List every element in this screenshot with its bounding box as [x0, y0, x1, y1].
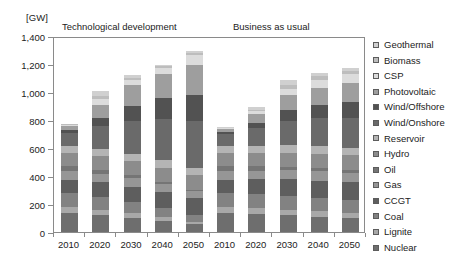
x-axis-tick-mark	[334, 233, 335, 237]
bar-segment	[248, 214, 265, 232]
legend: GeothermalBiomassCSPPhotovoltaicWind/Off…	[373, 37, 467, 255]
bar-segment	[61, 146, 78, 153]
bar-segment	[217, 153, 234, 166]
legend-item[interactable]: Gas	[373, 177, 467, 193]
bar-segment	[124, 161, 141, 175]
legend-label: CCGT	[384, 196, 411, 206]
bar-segment	[124, 85, 141, 106]
legend-item[interactable]: Coal	[373, 209, 467, 225]
bar-segment	[124, 154, 141, 161]
legend-swatch-icon	[373, 120, 379, 126]
bar-segment	[342, 74, 359, 83]
legend-item[interactable]: CSP	[373, 68, 467, 84]
stacked-bar	[92, 91, 109, 232]
bar-segment	[280, 95, 297, 110]
bar-segment	[92, 182, 109, 197]
bar-segment	[342, 102, 359, 117]
bar-segment	[186, 168, 203, 176]
bar-segment	[311, 198, 328, 211]
bar-segment	[92, 105, 109, 118]
x-axis-tick-label: 2010	[214, 239, 235, 250]
legend-swatch-icon	[373, 213, 379, 219]
stacked-bar	[155, 65, 172, 232]
stacked-bar	[124, 75, 141, 232]
legend-item[interactable]: CCGT	[373, 193, 467, 209]
legend-label: Oil	[384, 165, 396, 175]
legend-swatch-icon	[373, 198, 379, 204]
x-axis-tick-mark	[84, 233, 85, 237]
legend-swatch-icon	[373, 135, 379, 141]
legend-label: Coal	[384, 212, 404, 222]
legend-label: Wind/Offshore	[384, 102, 445, 112]
bar-segment	[61, 171, 78, 179]
bar-segment	[311, 88, 328, 106]
x-axis-tick-label: 2020	[89, 239, 110, 250]
bar-segment	[61, 180, 78, 193]
legend-label: Gas	[384, 180, 401, 190]
x-axis-tick-label: 2050	[183, 239, 204, 250]
stacked-bar	[280, 80, 297, 232]
bar-segment	[186, 55, 203, 66]
bar-segment	[342, 173, 359, 183]
bar-segment	[248, 114, 265, 122]
bar-segment	[311, 217, 328, 232]
bar-segment	[311, 118, 328, 146]
x-axis-tick-label: 2030	[276, 239, 297, 250]
bar-segment	[124, 218, 141, 232]
bar-segment	[342, 83, 359, 103]
x-axis-tick-mark	[303, 233, 304, 237]
bar-segment	[311, 146, 328, 154]
bar-segment	[248, 171, 265, 180]
bar-segment	[342, 218, 359, 232]
bar-segment	[186, 95, 203, 121]
bar-segment	[92, 215, 109, 232]
legend-item[interactable]: Lignite	[373, 224, 467, 240]
plot-area	[53, 37, 365, 233]
x-axis-tick-label: 2040	[308, 239, 329, 250]
legend-item[interactable]: Hydro	[373, 146, 467, 162]
bar-segment	[248, 153, 265, 167]
legend-item[interactable]: Photovoltaic	[373, 84, 467, 100]
bar-segment	[124, 106, 141, 121]
bar-segment	[124, 178, 141, 186]
stacked-bar	[311, 73, 328, 232]
legend-swatch-icon	[373, 104, 379, 110]
bar-segment	[248, 128, 265, 146]
legend-item[interactable]: Geothermal	[373, 37, 467, 53]
legend-item[interactable]: Wind/Offshore	[373, 99, 467, 115]
bar-segment	[92, 149, 109, 156]
legend-item[interactable]: Oil	[373, 162, 467, 178]
bar-segment	[280, 215, 297, 232]
stacked-bar	[186, 51, 203, 232]
legend-item[interactable]: Biomass	[373, 53, 467, 69]
bar-segment	[280, 153, 297, 167]
bar-segment	[186, 65, 203, 95]
legend-label: Wind/Onshore	[384, 118, 445, 128]
x-axis-tick-label: 2010	[58, 239, 79, 250]
bar-segment	[92, 197, 109, 210]
legend-item[interactable]: Reservoir	[373, 131, 467, 147]
bar-segment	[186, 198, 203, 215]
legend-item[interactable]: Wind/Onshore	[373, 115, 467, 131]
bar-segment	[61, 153, 78, 166]
bar-segment	[155, 221, 172, 232]
bar-segment	[61, 133, 78, 146]
bar-segment	[311, 105, 328, 118]
legend-label: Photovoltaic	[384, 87, 436, 97]
legend-label: Geothermal	[384, 40, 434, 50]
bar-segment	[92, 156, 109, 170]
bar-segment	[155, 192, 172, 209]
x-axis-tick-label: 2050	[339, 239, 360, 250]
bar-segment	[280, 179, 297, 196]
x-axis-tick-mark	[178, 233, 179, 237]
bar-segment	[342, 182, 359, 200]
bar-segment	[217, 193, 234, 207]
x-axis-tick-label: 2040	[152, 239, 173, 250]
legend-item[interactable]: Nuclear	[373, 240, 467, 256]
bar-segment	[280, 145, 297, 152]
bar-segment	[311, 181, 328, 199]
legend-swatch-icon	[373, 182, 379, 188]
x-axis-tick-label: 2030	[120, 239, 141, 250]
bar-segment	[342, 155, 359, 170]
y-axis-tick-label: 1,400	[21, 32, 45, 43]
